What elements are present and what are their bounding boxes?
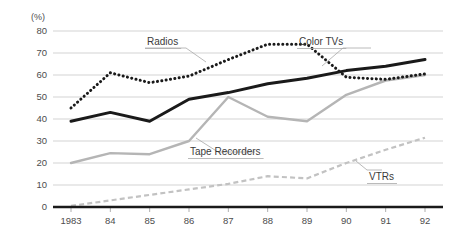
series-label-vtrs: VTRs [369,171,394,182]
x-tick-label-92: 92 [420,215,431,226]
x-tick-label-1983: 1983 [60,215,81,226]
x-tick-label-85: 85 [144,215,155,226]
x-tick-label-89: 89 [302,215,313,226]
series-label-color-tvs: Color TVs [299,36,343,47]
y-tick-label-50: 50 [36,91,47,102]
line-chart: (%) 01020304050607080 198384858687888990… [0,0,453,237]
y-tick-label-30: 30 [36,135,47,146]
chart-container: (%) 01020304050607080 198384858687888990… [0,0,453,237]
chart-background [0,0,453,237]
x-tick-label-87: 87 [223,215,234,226]
x-tick-label-86: 86 [184,215,195,226]
y-tick-label-40: 40 [36,113,47,124]
y-tick-label-20: 20 [36,157,47,168]
y-axis-unit-label: (%) [31,12,45,22]
y-tick-label-10: 10 [36,179,47,190]
y-axis-tick-labels: 01020304050607080 [36,25,47,212]
x-tick-label-84: 84 [105,215,116,226]
y-tick-label-60: 60 [36,69,47,80]
y-tick-label-80: 80 [36,25,47,36]
y-tick-label-0: 0 [42,201,47,212]
x-tick-label-90: 90 [341,215,352,226]
x-tick-label-91: 91 [380,215,391,226]
series-label-tape-recorders: Tape Recorders [190,146,261,157]
y-tick-label-70: 70 [36,47,47,58]
series-label-radios: Radios [147,36,178,47]
x-tick-label-88: 88 [262,215,273,226]
